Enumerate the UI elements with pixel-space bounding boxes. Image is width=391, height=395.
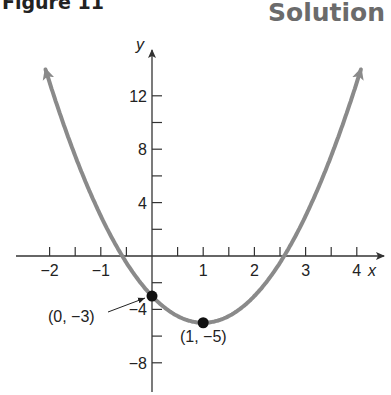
label-vertex: (1, −5) [180, 328, 227, 345]
x-tick-label: 1 [199, 262, 208, 279]
parabola-chart: −2−11234−8−44812xy (0, −3)(1, −5) [0, 0, 391, 395]
x-tick-label: 3 [301, 262, 310, 279]
point-y-intercept [147, 291, 158, 302]
x-tick-label: 4 [352, 262, 361, 279]
y-tick-label: 12 [129, 88, 147, 105]
y-tick-label: −8 [129, 355, 147, 372]
parabola-curve [46, 70, 361, 323]
point-vertex [198, 317, 209, 328]
x-tick-label: −2 [40, 262, 58, 279]
y-axis-label: y [135, 36, 145, 53]
x-tick-label: −1 [92, 262, 110, 279]
x-axis-label: x [367, 262, 377, 279]
label-y-intercept: (0, −3) [48, 308, 95, 325]
y-tick-label: 8 [138, 141, 147, 158]
x-tick-label: 2 [250, 262, 259, 279]
y-tick-label: 4 [138, 195, 147, 212]
y-tick-label: −4 [129, 301, 147, 318]
